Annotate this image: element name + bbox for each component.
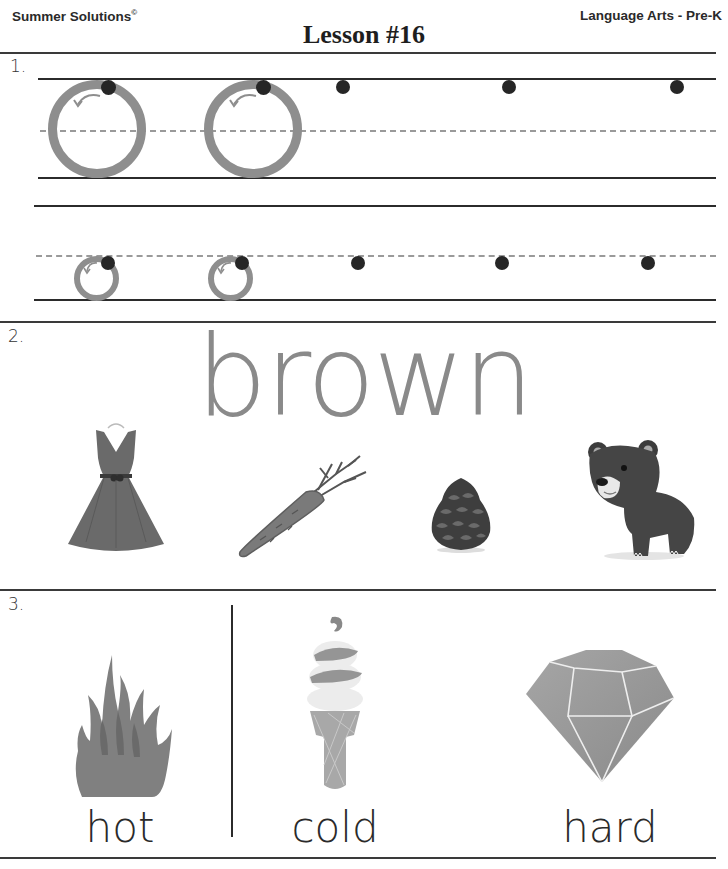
- direction-arrow-icon: [217, 260, 233, 276]
- direction-arrow-icon: [72, 90, 102, 110]
- start-dot: [256, 80, 271, 95]
- base-line: [38, 177, 716, 179]
- direction-arrow-icon: [83, 260, 99, 276]
- section-number-3: 3.: [8, 594, 24, 614]
- base-line: [34, 299, 716, 301]
- section-divider: [0, 857, 716, 859]
- page-title: Lesson #16: [0, 20, 728, 50]
- color-word: brown: [0, 320, 728, 432]
- start-dot: [235, 256, 249, 270]
- start-dot: [495, 256, 509, 270]
- start-dot: [502, 80, 516, 94]
- label-hot: hot: [60, 807, 180, 849]
- start-dot: [641, 256, 655, 270]
- ice-cream-cone-icon: [304, 615, 366, 793]
- bear-icon: [584, 438, 696, 562]
- top-line: [38, 78, 716, 80]
- section-divider: [0, 589, 716, 591]
- start-dot: [670, 80, 684, 94]
- dress-icon: [64, 418, 170, 554]
- start-dot: [101, 80, 116, 95]
- top-line: [34, 205, 716, 207]
- start-dot: [351, 256, 365, 270]
- header-divider: [0, 52, 716, 54]
- fire-icon: [72, 655, 172, 797]
- direction-arrow-icon: [228, 90, 258, 110]
- pinecone-icon: [428, 476, 494, 554]
- column-divider: [231, 605, 233, 837]
- diamond-icon: [526, 650, 676, 782]
- section-number-1: 1.: [10, 56, 26, 76]
- subject-label: Language Arts - Pre-K: [580, 8, 722, 23]
- label-hard: hard: [540, 807, 680, 849]
- midline-dashed: [36, 255, 716, 257]
- carrot-icon: [236, 452, 370, 558]
- start-dot: [336, 80, 350, 94]
- start-dot: [101, 256, 115, 270]
- label-cold: cold: [270, 807, 400, 849]
